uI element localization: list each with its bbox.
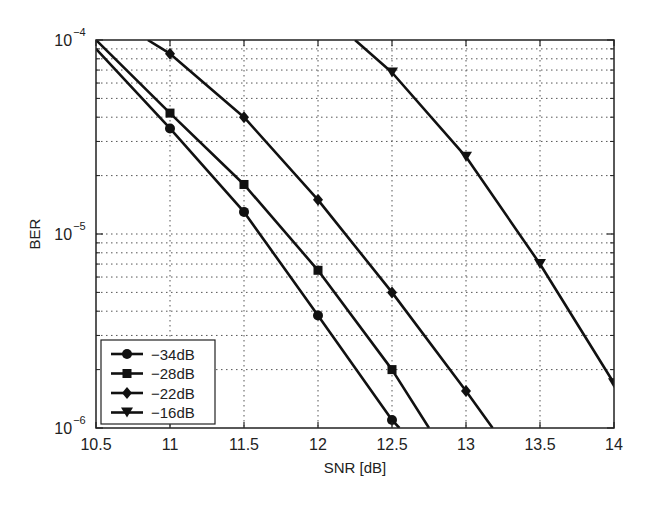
y-tick-label: 10−5 (54, 220, 85, 243)
svg-text:−22dB: −22dB (151, 385, 195, 402)
series-minus-16dB (355, 40, 620, 388)
x-tick-label: 13.5 (524, 436, 555, 453)
x-axis-label: SNR [dB] (324, 459, 387, 476)
svg-text:−28dB: −28dB (151, 365, 195, 382)
x-tick-label: 11.5 (229, 436, 259, 453)
y-tick-label: 10−4 (54, 26, 85, 49)
x-tick-label: 14 (605, 436, 623, 453)
x-tick-label: 12 (309, 436, 327, 453)
x-tick-label: 12.5 (376, 436, 407, 453)
svg-text:−16dB: −16dB (151, 404, 195, 421)
x-tick-label: 10.5 (80, 436, 111, 453)
ber-vs-snr-chart: 10.51111.51212.51313.51410−610−510−4 SNR… (0, 0, 648, 507)
y-tick-label: 10−6 (54, 414, 85, 437)
x-tick-label: 13 (457, 436, 475, 453)
x-tick-label: 11 (162, 436, 179, 453)
legend: −34dB−28dB−22dB−16dB (101, 340, 215, 424)
svg-text:−34dB: −34dB (151, 346, 195, 363)
y-axis-label: BER (26, 218, 43, 249)
